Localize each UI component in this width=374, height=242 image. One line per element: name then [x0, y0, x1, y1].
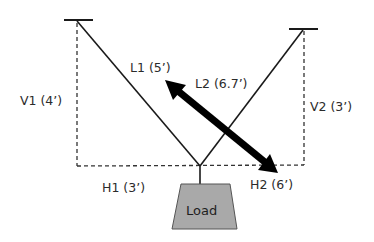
label-v2: V2 (3’) — [310, 101, 352, 114]
rope-load-diagram: L1 (5’) L2 (6.7’) V1 (4’) V2 (3’) H1 (3’… — [0, 0, 374, 242]
label-v1: V1 (4’) — [20, 95, 62, 108]
load-label: Load — [186, 204, 217, 217]
label-h1: H1 (3’) — [102, 182, 145, 195]
double-arrow-icon — [165, 80, 278, 173]
label-l2: L2 (6.7’) — [195, 78, 248, 91]
label-l1: L1 (5’) — [130, 62, 171, 75]
rope-l2 — [200, 30, 303, 166]
label-h2: H2 (6’) — [250, 179, 293, 192]
